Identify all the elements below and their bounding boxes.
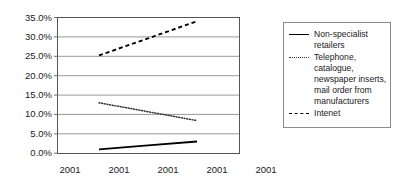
x-axis-tick-label: 2001 bbox=[99, 165, 139, 175]
legend-item-label: Non-specialist retailers bbox=[314, 29, 390, 51]
x-axis-tick-label: 2001 bbox=[246, 165, 286, 175]
x-axis-tick-label: 2001 bbox=[148, 165, 188, 175]
dotted-line-icon bbox=[289, 57, 309, 61]
solid-line-icon bbox=[289, 34, 309, 38]
dashed-line-icon bbox=[289, 113, 309, 117]
chart-legend: Non-specialist retailers Telephone, cata… bbox=[283, 22, 391, 128]
legend-item-label: Intenet bbox=[314, 108, 390, 119]
line-chart: 35.0% 30.0% 25.0% 20.0% 15.0% 10.0% 5.0%… bbox=[0, 0, 403, 186]
x-axis-tick-label: 2001 bbox=[50, 165, 90, 175]
legend-item-label: Telephone, catalogue, newspaper inserts,… bbox=[314, 52, 390, 108]
x-axis-tick-label: 2001 bbox=[197, 165, 237, 175]
